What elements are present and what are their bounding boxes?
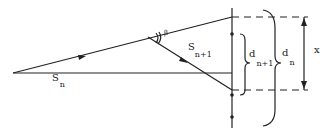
label-x: x xyxy=(314,45,320,55)
beta-arc-1 xyxy=(156,33,158,43)
x-arrow-bottom xyxy=(301,81,307,89)
axis-dot xyxy=(230,115,234,119)
label-d-n1: dn+1 xyxy=(249,49,272,59)
x-arrow-top xyxy=(301,18,307,26)
label-beta: β xyxy=(164,30,168,37)
brace-d-n1 xyxy=(240,34,250,95)
label-s-n: Sn xyxy=(52,73,64,83)
label-s-n1: Sn+1 xyxy=(188,42,212,52)
ray-geometry-diagram: Sn Sn+1 β dn+1 dn x xyxy=(0,0,329,135)
upper-ray-arrowhead xyxy=(78,55,86,60)
axis-dot xyxy=(230,93,234,97)
diagram-lines xyxy=(0,0,329,135)
label-d-n: dn xyxy=(282,48,294,58)
brace-d-n xyxy=(263,10,281,126)
axis-dot xyxy=(230,32,234,36)
